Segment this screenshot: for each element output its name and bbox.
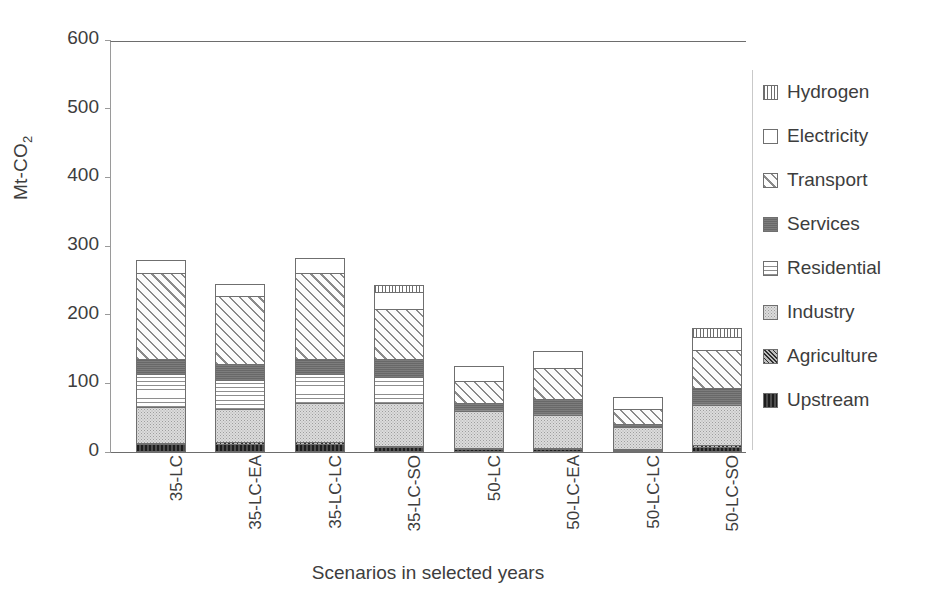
y-tick-label: 500 [67, 96, 99, 118]
bar-segment-agriculture[interactable] [136, 443, 186, 444]
bar-segment-industry[interactable] [295, 403, 345, 442]
bar-segment-services[interactable] [374, 359, 424, 378]
bar-segment-upstream[interactable] [533, 449, 583, 452]
bar-segment-residential[interactable] [533, 413, 583, 415]
legend-label: Transport [787, 169, 868, 191]
legend-item-hydrogen[interactable]: Hydrogen [763, 70, 924, 114]
bar-segment-electricity[interactable] [613, 397, 663, 409]
bar-segment-electricity[interactable] [136, 260, 186, 273]
bar-segment-services[interactable] [613, 424, 663, 426]
bar-segment-services[interactable] [533, 399, 583, 413]
y-tick-label: 300 [67, 233, 99, 255]
bar-50-lc-ea[interactable] [533, 351, 583, 452]
bar-segment-upstream[interactable] [613, 450, 663, 452]
legend-item-electricity[interactable]: Electricity [763, 114, 924, 158]
bar-segment-residential[interactable] [136, 374, 186, 406]
bar-segment-transport[interactable] [692, 350, 742, 388]
legend-item-industry[interactable]: Industry [763, 290, 924, 334]
bar-segment-agriculture[interactable] [374, 446, 424, 447]
bar-segment-electricity[interactable] [215, 284, 265, 296]
legend-item-residential[interactable]: Residential [763, 246, 924, 290]
x-tick-label-35-lc-ea: 35-LC-EA [246, 455, 266, 530]
bar-segment-upstream[interactable] [692, 447, 742, 452]
bar-segment-agriculture[interactable] [215, 442, 265, 443]
legend-label: Residential [787, 257, 881, 279]
legend-item-upstream[interactable]: Upstream [763, 378, 924, 422]
bar-50-lc-lc[interactable] [613, 397, 663, 452]
bar-segment-industry[interactable] [533, 415, 583, 448]
bar-50-lc[interactable] [454, 365, 504, 452]
bar-segment-upstream[interactable] [215, 444, 265, 452]
bar-segment-transport[interactable] [613, 409, 663, 423]
x-tick-label-35-lc-so: 35-LC-SO [405, 455, 425, 532]
legend-label: Services [787, 213, 860, 235]
legend-label: Upstream [787, 389, 869, 411]
legend-label: Electricity [787, 125, 868, 147]
bar-35-lc-ea[interactable] [215, 284, 265, 452]
bar-segment-residential[interactable] [692, 403, 742, 406]
bar-segment-upstream[interactable] [374, 447, 424, 452]
bar-segment-transport[interactable] [533, 368, 583, 400]
legend-swatch-services-icon [763, 217, 778, 232]
bar-segment-industry[interactable] [374, 403, 424, 446]
bar-segment-services[interactable] [136, 359, 186, 375]
bar-35-lc[interactable] [136, 260, 186, 452]
bar-segment-hydrogen[interactable] [692, 328, 742, 337]
bar-segment-transport[interactable] [136, 273, 186, 359]
bar-segment-industry[interactable] [136, 407, 186, 443]
bar-segment-residential[interactable] [215, 380, 265, 410]
bar-segment-services[interactable] [692, 388, 742, 402]
bar-segment-industry[interactable] [454, 411, 504, 448]
bar-segment-residential[interactable] [454, 409, 504, 411]
bar-segment-agriculture[interactable] [454, 448, 504, 449]
bar-segment-electricity[interactable] [454, 366, 504, 381]
legend-swatch-residential-icon [763, 261, 778, 276]
bar-segment-agriculture[interactable] [692, 445, 742, 446]
x-axis-tick-labels: 35-LC35-LC-EA35-LC-LC35-LC-SO50-LC50-LC-… [110, 455, 746, 555]
bar-segment-industry[interactable] [692, 405, 742, 445]
y-axis-title: Mt-CO2 [10, 80, 35, 200]
bar-segment-electricity[interactable] [692, 337, 742, 350]
bar-segment-services[interactable] [454, 403, 504, 409]
bar-segment-services[interactable] [295, 359, 345, 375]
x-tick-label-50-lc: 50-LC [485, 455, 505, 501]
y-tick-label: 400 [67, 164, 99, 186]
bar-segment-agriculture[interactable] [295, 442, 345, 443]
bar-segment-electricity[interactable] [533, 351, 583, 367]
bar-segment-upstream[interactable] [454, 449, 504, 452]
bar-segment-services[interactable] [215, 364, 265, 380]
bar-segment-transport[interactable] [454, 381, 504, 403]
y-axis-title-subscript: 2 [20, 136, 35, 143]
bar-segment-transport[interactable] [374, 309, 424, 359]
bar-35-lc-lc[interactable] [295, 258, 345, 452]
legend-item-agriculture[interactable]: Agriculture [763, 334, 924, 378]
legend-swatch-electricity-icon [763, 129, 778, 144]
bar-segment-residential[interactable] [613, 426, 663, 427]
chart-legend: HydrogenElectricityTransportServicesResi… [752, 70, 924, 450]
bar-segment-industry[interactable] [215, 409, 265, 442]
bar-segment-industry[interactable] [613, 427, 663, 449]
x-axis-title: Scenarios in selected years [110, 562, 746, 584]
bar-segment-agriculture[interactable] [533, 448, 583, 449]
bar-segment-upstream[interactable] [295, 444, 345, 452]
bar-segment-upstream[interactable] [136, 444, 186, 452]
y-tick-label: 0 [88, 439, 99, 461]
bar-segment-transport[interactable] [215, 296, 265, 365]
stacked-bar-chart: Mt-CO2 0100200300400500600 35-LC35-LC-EA… [0, 0, 929, 604]
x-tick-label-50-lc-so: 50-LC-SO [723, 455, 743, 532]
legend-label: Agriculture [787, 345, 878, 367]
legend-item-transport[interactable]: Transport [763, 158, 924, 202]
bar-35-lc-so[interactable] [374, 284, 424, 452]
legend-label: Hydrogen [787, 81, 869, 103]
bar-segment-hydrogen[interactable] [374, 285, 424, 293]
bar-segment-electricity[interactable] [295, 258, 345, 273]
y-tick-mark [105, 40, 111, 41]
bar-segment-residential[interactable] [374, 377, 424, 403]
legend-item-services[interactable]: Services [763, 202, 924, 246]
bar-segment-transport[interactable] [295, 273, 345, 359]
legend-swatch-agriculture-icon [763, 349, 778, 364]
bar-segment-residential[interactable] [295, 374, 345, 403]
bar-segment-electricity[interactable] [374, 292, 424, 308]
bar-50-lc-so[interactable] [692, 328, 742, 452]
bar-segment-agriculture[interactable] [613, 449, 663, 450]
